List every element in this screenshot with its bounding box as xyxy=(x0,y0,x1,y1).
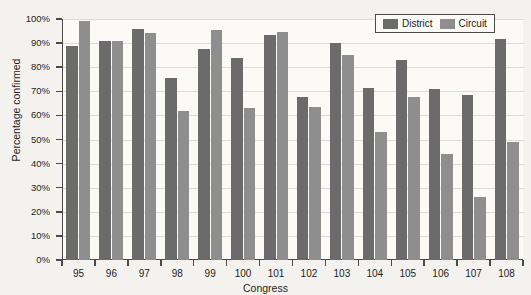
bar-circuit-108 xyxy=(507,142,519,260)
bar-circuit-105 xyxy=(408,97,420,260)
x-tick-mark xyxy=(522,260,524,266)
bar-district-105 xyxy=(396,60,408,260)
bar-chart-figure: Percentage confirmed Congress 0%10%20%30… xyxy=(0,0,531,295)
legend-item-district: District xyxy=(383,18,433,29)
x-tick-label: 108 xyxy=(487,268,527,280)
bar-circuit-106 xyxy=(441,154,453,260)
y-tick-mark xyxy=(56,187,62,189)
x-axis-label: Congress xyxy=(0,282,531,294)
y-tick-label: 50% xyxy=(2,135,50,145)
bar-circuit-99 xyxy=(211,30,223,260)
x-tick-mark xyxy=(259,260,261,266)
x-tick-mark xyxy=(127,260,129,266)
y-tick-mark xyxy=(56,18,62,20)
x-tick-mark xyxy=(456,260,458,266)
chart-legend: District Circuit xyxy=(375,14,495,33)
bar-circuit-96 xyxy=(112,41,124,260)
bar-district-106 xyxy=(429,89,441,260)
bar-circuit-98 xyxy=(178,111,190,260)
y-tick-mark xyxy=(56,139,62,141)
y-tick-label: 20% xyxy=(2,207,50,217)
y-tick-label: 90% xyxy=(2,38,50,48)
x-tick-mark xyxy=(423,260,425,266)
bar-district-97 xyxy=(132,29,144,260)
y-tick-mark xyxy=(56,211,62,213)
x-tick-mark xyxy=(358,260,360,266)
bar-district-103 xyxy=(330,43,342,260)
y-tick-mark xyxy=(56,163,62,165)
bar-circuit-104 xyxy=(375,132,387,260)
bar-district-102 xyxy=(297,97,309,260)
bar-circuit-103 xyxy=(342,55,354,260)
y-tick-label: 80% xyxy=(2,62,50,72)
bar-circuit-107 xyxy=(474,197,486,260)
x-tick-mark xyxy=(226,260,228,266)
x-tick-mark xyxy=(61,260,63,266)
legend-swatch-district-icon xyxy=(383,19,398,29)
y-tick-mark xyxy=(56,235,62,237)
bar-circuit-102 xyxy=(309,107,321,260)
y-tick-label: 40% xyxy=(2,159,50,169)
x-tick-mark xyxy=(489,260,491,266)
legend-label-district: District xyxy=(402,18,433,29)
y-tick-label: 10% xyxy=(2,231,50,241)
bar-circuit-101 xyxy=(277,32,289,260)
bar-district-98 xyxy=(165,78,177,260)
plot-area xyxy=(62,19,523,260)
bar-district-108 xyxy=(495,39,507,260)
bar-district-101 xyxy=(264,35,276,260)
y-tick-label: 0% xyxy=(2,255,50,265)
x-tick-mark xyxy=(292,260,294,266)
y-tick-label: 60% xyxy=(2,110,50,120)
bar-district-104 xyxy=(363,88,375,260)
y-tick-label: 100% xyxy=(2,14,50,24)
bar-circuit-100 xyxy=(244,108,256,260)
bar-district-95 xyxy=(66,46,78,260)
bar-district-100 xyxy=(231,58,243,260)
x-tick-mark xyxy=(160,260,162,266)
y-tick-mark xyxy=(56,91,62,93)
x-tick-mark xyxy=(391,260,393,266)
bar-district-96 xyxy=(99,41,111,260)
bar-district-107 xyxy=(462,95,474,260)
y-tick-mark xyxy=(56,66,62,68)
x-tick-mark xyxy=(94,260,96,266)
bar-circuit-95 xyxy=(79,21,91,260)
legend-swatch-circuit-icon xyxy=(440,19,455,29)
y-tick-label: 30% xyxy=(2,183,50,193)
y-tick-mark xyxy=(56,42,62,44)
legend-label-circuit: Circuit xyxy=(459,18,487,29)
y-tick-mark xyxy=(56,115,62,117)
x-tick-mark xyxy=(193,260,195,266)
legend-item-circuit: Circuit xyxy=(440,18,487,29)
y-tick-label: 70% xyxy=(2,86,50,96)
x-tick-mark xyxy=(325,260,327,266)
bar-district-99 xyxy=(198,49,210,260)
bar-circuit-97 xyxy=(145,33,157,260)
